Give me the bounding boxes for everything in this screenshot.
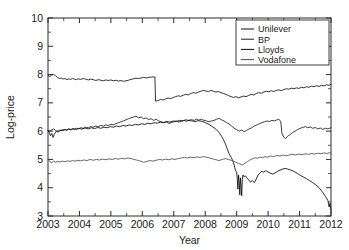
- x-tick-label: 2010: [256, 218, 280, 230]
- series-line-unilever: [48, 75, 331, 102]
- series-line-vodafone: [48, 153, 331, 165]
- y-tick-label: 5: [37, 153, 43, 165]
- chart-figure: 345678910 200320042005200620072008200920…: [0, 0, 349, 250]
- y-tick-label: 9: [37, 40, 43, 52]
- legend-label-unilever: Unilever: [258, 24, 291, 34]
- legend-label-bp: BP: [258, 35, 270, 45]
- x-tick-label: 2007: [162, 218, 186, 230]
- x-tick-label: 2006: [131, 218, 155, 230]
- x-tick-label: 2008: [194, 218, 218, 230]
- y-tick-label: 10: [31, 12, 43, 24]
- x-tick-label: 2011: [288, 218, 311, 230]
- y-tick-label: 6: [37, 125, 43, 137]
- y-tick-label: 4: [37, 181, 43, 193]
- y-axis-tick-labels: 345678910: [31, 12, 43, 222]
- legend-label-lloyds: Lloyds: [258, 45, 285, 55]
- x-tick-label: 2005: [99, 218, 123, 230]
- data-series-group: [48, 75, 331, 211]
- x-tick-label: 2004: [68, 218, 92, 230]
- y-axis-title: Log-price: [4, 95, 16, 139]
- chart-canvas: 345678910 200320042005200620072008200920…: [0, 0, 349, 250]
- y-tick-label: 7: [37, 96, 43, 108]
- x-tick-label: 2003: [36, 218, 60, 230]
- series-line-lloyds: [48, 120, 331, 211]
- x-tick-label: 2009: [225, 218, 249, 230]
- x-axis-title: Year: [179, 234, 201, 246]
- x-tick-label: 2012: [319, 218, 343, 230]
- chart-legend: UnileverBPLloydsVodafone: [236, 20, 329, 65]
- y-tick-label: 8: [37, 68, 43, 80]
- x-axis-tick-labels: 2003200420052006200720082009201020112012: [36, 218, 343, 230]
- series-line-bp: [48, 116, 331, 138]
- legend-label-vodafone: Vodafone: [258, 55, 296, 65]
